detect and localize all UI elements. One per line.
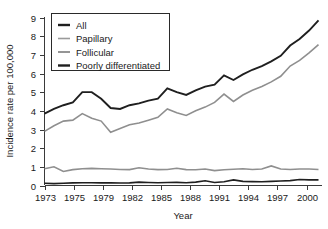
- x-axis-ticks: [46, 186, 308, 191]
- chart-legend: AllPapillaryFollicularPoorly differentia…: [52, 14, 170, 72]
- legend-label-all: All: [76, 20, 87, 31]
- y-axis-tick-labels: 0123456789: [31, 13, 36, 192]
- y-tick-label: 2: [31, 143, 36, 154]
- x-tick-label: 1975: [64, 192, 85, 203]
- x-axis: 1973197519791982198519881991199419972000: [35, 186, 322, 204]
- y-axis-title: Incidence rate per 100,000: [4, 44, 15, 157]
- series-line-poorly-differentiated: [45, 180, 319, 184]
- y-tick-label: 4: [31, 106, 36, 117]
- x-tick-label: 1988: [180, 192, 201, 203]
- y-tick-label: 6: [31, 69, 36, 80]
- legend-label-papillary: Papillary: [76, 33, 113, 44]
- chart-canvas: 0123456789 19731975197919821985198819911…: [0, 0, 328, 229]
- y-axis: 0123456789: [31, 13, 45, 192]
- series-line-follicular: [45, 166, 319, 172]
- y-tick-label: 0: [31, 181, 36, 192]
- x-axis-tick-labels: 1973197519791982198519881991199419972000: [35, 192, 318, 203]
- legend-label-poorly-differentiated: Poorly differentiated: [76, 60, 160, 71]
- x-axis-title: Year: [173, 210, 192, 221]
- incidence-rate-line-chart: 0123456789 19731975197919821985198819911…: [0, 0, 328, 229]
- x-tick-label: 1985: [151, 192, 172, 203]
- y-tick-label: 5: [31, 87, 36, 98]
- y-tick-label: 9: [31, 13, 36, 24]
- x-tick-label: 1997: [267, 192, 288, 203]
- y-tick-label: 7: [31, 50, 36, 61]
- y-axis-ticks: [40, 19, 45, 187]
- x-tick-label: 1982: [122, 192, 143, 203]
- y-tick-label: 3: [31, 125, 36, 136]
- x-tick-label: 1979: [93, 192, 114, 203]
- x-tick-label: 1991: [209, 192, 230, 203]
- x-tick-label: 2000: [297, 192, 318, 203]
- x-tick-label: 1973: [35, 192, 56, 203]
- x-tick-label: 1994: [238, 192, 259, 203]
- legend-label-follicular: Follicular: [76, 47, 114, 58]
- y-tick-label: 1: [31, 162, 36, 173]
- y-tick-label: 8: [31, 31, 36, 42]
